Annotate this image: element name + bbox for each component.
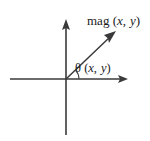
magnitude-label: mag (x, y) xyxy=(87,14,140,27)
angle-label-comma: , xyxy=(94,61,101,75)
magnitude-label-close-paren: ) xyxy=(136,13,140,28)
vector-diagram: mag (x, y) θ (x, y) xyxy=(0,0,150,141)
angle-label: θ (x, y) xyxy=(75,62,111,75)
magnitude-label-open-paren: ( xyxy=(109,13,117,28)
magnitude-label-comma: , xyxy=(123,13,130,28)
angle-label-close-paren: ) xyxy=(106,61,110,75)
magnitude-label-name: mag xyxy=(87,13,109,28)
